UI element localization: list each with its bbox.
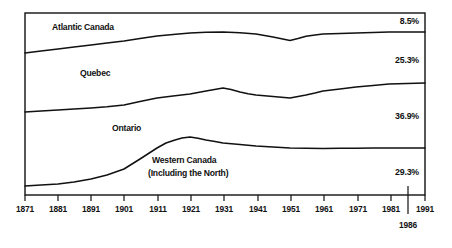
series-label-quebec: Quebec	[80, 68, 111, 78]
boundary-quebec-ontario	[25, 83, 425, 112]
chart-canvas: Atlantic Canada Quebec Ontario Western C…	[0, 0, 452, 248]
x-tick-label-1891: 1891	[82, 204, 100, 214]
series-label-western-canada-line2: (Including the North)	[148, 168, 229, 178]
x-tick-label-1881: 1881	[49, 204, 67, 214]
x-tick-label-1931: 1931	[215, 204, 233, 214]
x-tick-label-1951: 1951	[282, 204, 300, 214]
boundary-atlantic-quebec	[25, 32, 425, 53]
x-tick-label-1991: 1991	[416, 204, 434, 214]
x-tick-label-1961: 1961	[315, 204, 333, 214]
x-tick-label-1911: 1911	[149, 204, 167, 214]
x-tick-label-1901: 1901	[115, 204, 133, 214]
x-tick-label-1971: 1971	[349, 204, 367, 214]
x-tick-label-1981: 1981	[382, 204, 400, 214]
series-label-atlantic-canada: Atlantic Canada	[52, 22, 114, 32]
x-tick-label-1921: 1921	[182, 204, 200, 214]
value-label-western-canada: 29.3%	[395, 167, 419, 177]
series-label-western-canada-line1: Western Canada	[152, 155, 217, 165]
population-distribution-area-chart: Atlantic Canada Quebec Ontario Western C…	[0, 0, 452, 248]
value-label-quebec: 25.3%	[395, 55, 419, 65]
x-tick-label-1986: 1986	[399, 220, 417, 230]
boundary-ontario-western	[25, 137, 425, 186]
value-label-ontario: 36.9%	[395, 111, 419, 121]
value-label-atlantic-canada: 8.5%	[400, 16, 420, 26]
series-label-ontario: Ontario	[112, 123, 141, 133]
x-tick-label-1871: 1871	[16, 204, 34, 214]
x-tick-label-1941: 1941	[249, 204, 267, 214]
